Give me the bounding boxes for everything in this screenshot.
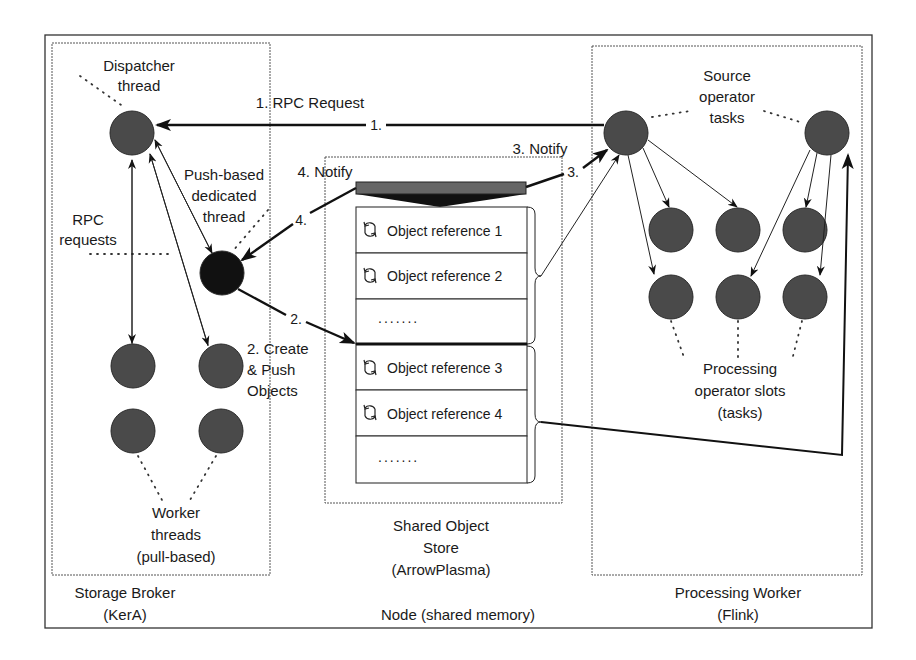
source-label-line1: Source [703, 67, 751, 84]
slots-label-line2: operator slots [695, 382, 786, 399]
notify3-line-a [526, 174, 564, 187]
slots-label-line1: Processing [703, 360, 777, 377]
notify3-arrow [583, 150, 607, 168]
object-reference-label: Object reference 4 [387, 406, 502, 422]
store-title-line2: Store [423, 539, 459, 556]
rpc-requests-line1: RPC [72, 211, 104, 228]
object-reference-label: Object reference 2 [387, 268, 502, 284]
step2-label-line2: & Push [247, 361, 295, 378]
source-label-line2: operator [699, 88, 755, 105]
store-title-line3: (ArrowPlasma) [391, 561, 490, 578]
step1-label: 1. RPC Request [256, 94, 365, 111]
worker-label-line1: Worker [152, 504, 200, 521]
step1-marker: 1. [370, 117, 382, 133]
slot-pointer-dots-right [792, 321, 802, 360]
notify-funnel [356, 194, 526, 207]
worker-title-line1: Processing Worker [675, 584, 801, 601]
operator-slot-node [649, 208, 693, 252]
brace-upper-to-source1-arrow [541, 155, 619, 276]
dispatcher-label-line2: thread [118, 77, 161, 94]
brace-upper [527, 207, 541, 344]
store-title-line1: Shared Object [393, 517, 490, 534]
source-pointer-dots-right [764, 111, 800, 122]
step2-label-line3: Objects [247, 382, 298, 399]
worker-pointer-dots-left [138, 456, 162, 500]
push-objects-line-a [238, 289, 286, 315]
push-objects-arrow [306, 322, 354, 343]
slots-label-line3: (tasks) [718, 404, 763, 421]
object-reference-label: Object reference 1 [387, 223, 502, 239]
push-label-line1: Push-based [184, 166, 264, 183]
storage-broker-box [52, 43, 270, 575]
rpc-requests-line2: requests [59, 231, 117, 248]
worker-pointer-dots-right [190, 456, 216, 500]
step2-marker: 2. [290, 311, 302, 327]
worker-label-line3: (pull-based) [136, 548, 215, 565]
broker-title-line2: (KerA) [103, 606, 146, 623]
worker-label-line2: threads [151, 526, 201, 543]
source-pointer-dots-left [652, 111, 690, 117]
node-label: Node (shared memory) [381, 606, 535, 623]
brace-lower [527, 346, 541, 483]
worker-thread-node-2 [199, 344, 243, 388]
architecture-diagram: Node (shared memory) Storage Broker (Ker… [0, 0, 916, 660]
push-label-line3: thread [203, 208, 246, 225]
edge [806, 153, 817, 207]
dispatcher-label-line1: Dispatcher [103, 57, 175, 74]
source-task-node-1 [604, 111, 648, 155]
object-reference-label: Object reference 3 [387, 360, 502, 376]
notify4-line-a [310, 188, 356, 213]
edge [648, 140, 737, 207]
slot-pointer-dots-left [671, 321, 685, 360]
ellipsis-label: ....... [378, 449, 419, 465]
worker-thread-node-4 [199, 409, 243, 453]
operator-slot-node [783, 275, 827, 319]
edge [628, 155, 654, 274]
step3-marker: 3. [567, 164, 579, 180]
worker-thread-node-1 [111, 344, 155, 388]
push-thread-node [200, 251, 244, 295]
push-label-line2: dedicated [191, 187, 256, 204]
operator-slot-node [649, 275, 693, 319]
step4-marker: 4. [295, 212, 307, 228]
step2-label-line1: 2. Create [247, 340, 309, 357]
source-label-line3: tasks [709, 109, 744, 126]
notify4-arrow [242, 224, 293, 260]
step3-label: 3. Notify [512, 140, 568, 157]
notify-bar [356, 182, 526, 194]
operator-slot-node [716, 275, 760, 319]
operator-slot-node [783, 208, 827, 252]
worker-title-line2: (Flink) [717, 606, 759, 623]
source-task-node-2 [805, 111, 849, 155]
broker-title-line1: Storage Broker [75, 584, 176, 601]
worker-thread-node-3 [111, 409, 155, 453]
dispatcher-thread-node [110, 111, 154, 155]
step4-label: 4. Notify [297, 163, 353, 180]
ellipsis-label: ....... [378, 310, 419, 326]
edge [643, 148, 669, 207]
operator-slot-node [716, 208, 760, 252]
